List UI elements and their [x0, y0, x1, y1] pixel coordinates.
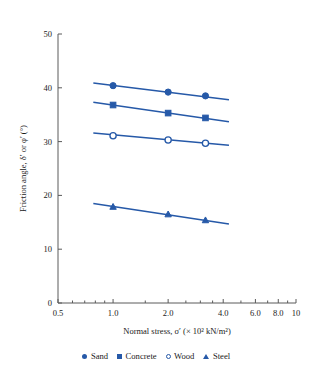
legend-item-sand: Sand [82, 352, 108, 361]
y-tick-label: 30 [44, 137, 53, 147]
y-tick-label: 50 [44, 29, 53, 39]
filled-triangle-icon [203, 354, 209, 359]
y-axis-title: Friction angle, δ′ or φ′ (°) [18, 125, 28, 212]
legend-label-concrete: Concrete [126, 352, 157, 361]
legend-item-steel: Steel [203, 352, 230, 361]
x-axis-title: Normal stress, σ′ (× 10² kN/m²) [123, 326, 231, 336]
data-point-marker [202, 140, 208, 146]
y-tick-label: 40 [44, 83, 53, 93]
legend-label-steel: Steel [213, 352, 230, 361]
y-tick-label: 10 [44, 244, 53, 254]
x-tick-label: 6.0 [250, 308, 261, 318]
chart-axes [58, 34, 296, 303]
chart-svg: 010203040500.51.02.04.06.08.010Normal st… [0, 0, 312, 384]
data-point-marker [110, 133, 116, 139]
data-point-marker [165, 110, 171, 116]
series-sand [93, 83, 229, 100]
filled-square-icon [117, 354, 122, 359]
x-tick-label: 0.5 [53, 308, 64, 318]
series-concrete [93, 102, 229, 121]
legend-item-concrete: Concrete [117, 352, 157, 361]
data-point-marker [110, 102, 116, 108]
series-steel [93, 203, 229, 223]
chart-legend: Sand Concrete Wood Steel [0, 352, 312, 361]
plot-area: 010203040500.51.02.04.06.08.010Normal st… [0, 0, 312, 384]
x-tick-label: 10 [292, 308, 301, 318]
y-tick-label: 20 [44, 190, 53, 200]
data-point-marker [165, 89, 171, 95]
x-tick-label: 8.0 [273, 308, 284, 318]
x-tick-label: 4.0 [218, 308, 229, 318]
chart-figure: 010203040500.51.02.04.06.08.010Normal st… [0, 0, 312, 384]
legend-label-sand: Sand [91, 352, 108, 361]
legend-item-wood: Wood [166, 352, 195, 361]
data-point-marker [203, 115, 209, 121]
x-tick-label: 2.0 [163, 308, 174, 318]
y-tick-label: 0 [48, 298, 52, 308]
data-point-marker [110, 83, 116, 89]
data-point-marker [165, 137, 171, 143]
filled-circle-icon [82, 354, 88, 360]
open-circle-icon [166, 354, 171, 359]
legend-label-wood: Wood [174, 352, 194, 361]
data-point-marker [202, 93, 208, 99]
x-tick-label: 1.0 [108, 308, 119, 318]
series-wood [93, 133, 229, 147]
